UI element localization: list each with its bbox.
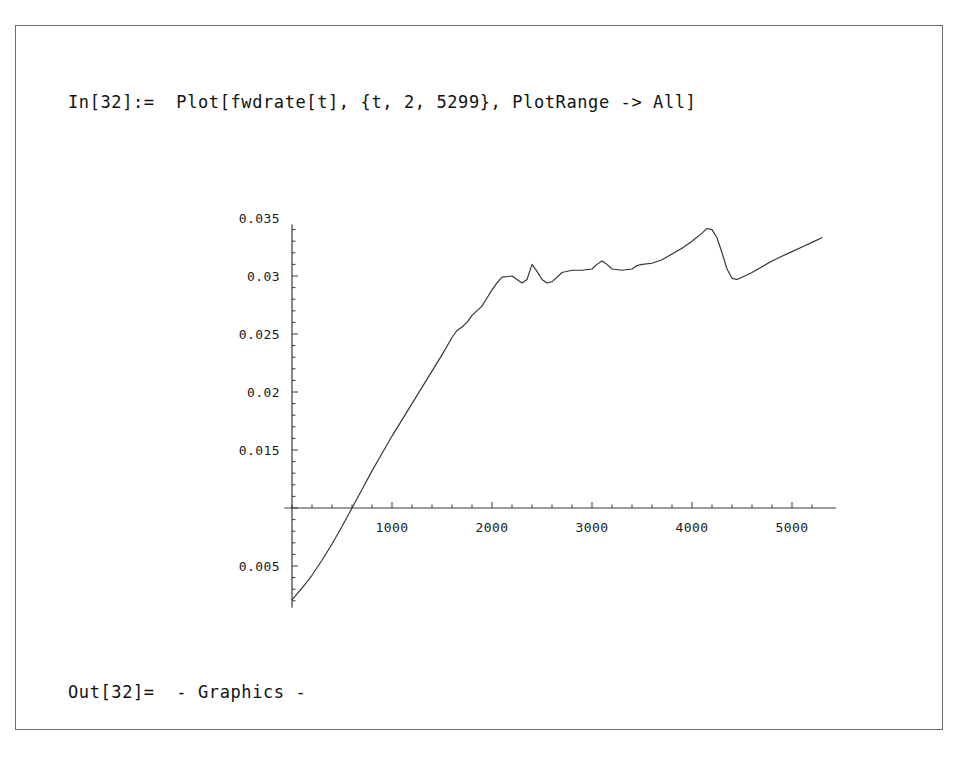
notebook-window: In[32]:= Plot[fwdrate[t], {t, 2, 5299}, …	[0, 0, 961, 757]
input-cell[interactable]: In[32]:= Plot[fwdrate[t], {t, 2, 5299}, …	[68, 92, 696, 112]
output-cell: Out[32]= - Graphics -	[68, 682, 306, 702]
notebook-frame: In[32]:= Plot[fwdrate[t], {t, 2, 5299}, …	[15, 25, 943, 730]
